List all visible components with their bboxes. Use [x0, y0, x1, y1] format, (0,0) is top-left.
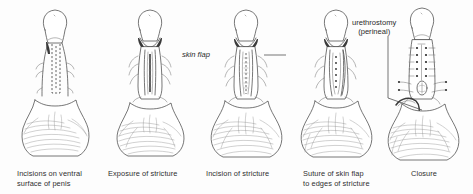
- closure-with-urethrostomy-drawing: [378, 0, 473, 165]
- caption-panel-4: Suture of skin flap to edges of strictur…: [303, 169, 399, 188]
- panel-3: [200, 0, 295, 165]
- penis-ventral-incision-drawing: [8, 0, 103, 165]
- caption-panel-1: Incisions on ventral surface of penis: [17, 169, 112, 188]
- panel-2: [104, 0, 199, 165]
- panel-1: [8, 0, 103, 165]
- stricture-exposure-drawing: [104, 0, 199, 165]
- stricture-incision-drawing: [200, 0, 295, 165]
- surgical-illustration-plate: skin flap: [0, 0, 473, 194]
- panel-5: [378, 0, 473, 165]
- caption-panel-3: Incision of stricture: [206, 169, 301, 179]
- caption-panel-2: Exposure of stricture: [108, 169, 203, 179]
- caption-panel-5: Closure: [411, 169, 471, 179]
